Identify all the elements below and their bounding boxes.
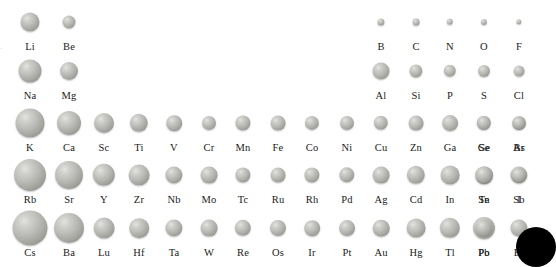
atom-sphere-zr <box>129 165 150 186</box>
element-symbol-fe: Fe <box>273 142 284 153</box>
element-symbol-ca: Ca <box>63 142 75 153</box>
atom-sphere-n <box>447 19 453 25</box>
element-symbol-au: Au <box>374 247 387 258</box>
element-symbol-se: Se <box>479 142 490 153</box>
atom-sphere-lu <box>94 218 115 239</box>
element-symbol-cs: Cs <box>24 247 36 258</box>
atom-sphere-al <box>373 63 390 80</box>
atom-sphere-rh <box>304 167 319 182</box>
atom-sphere-rb <box>14 159 46 191</box>
element-symbol-y: Y <box>100 194 108 205</box>
atom-sphere-cs <box>13 211 48 246</box>
element-symbol-pt: Pt <box>342 247 351 258</box>
element-symbol-cr: Cr <box>204 142 215 153</box>
atom-sphere-ba <box>54 213 84 243</box>
element-symbol-nb: Nb <box>167 194 180 205</box>
element-symbol-hf: Hf <box>133 247 144 258</box>
atom-sphere-cu <box>374 116 388 130</box>
element-symbol-po: Po <box>478 247 490 258</box>
atom-sphere-ga <box>442 115 458 131</box>
element-symbol-hg: Hg <box>409 247 422 258</box>
atom-sphere-b <box>377 18 384 25</box>
element-symbol-os: Os <box>272 247 284 258</box>
element-symbol-si: Si <box>411 90 420 101</box>
element-symbol-cd: Cd <box>410 194 423 205</box>
atom-sphere-li <box>21 13 40 32</box>
element-symbol-mg: Mg <box>62 90 77 101</box>
atom-sphere-tc <box>235 167 250 182</box>
atom-sphere-os <box>270 220 286 236</box>
atom-sphere-cl <box>514 66 525 77</box>
atom-sphere-tl <box>440 218 460 238</box>
atom-sphere-sc <box>94 113 114 133</box>
element-symbol-k: K <box>26 142 34 153</box>
element-symbol-b: B <box>377 41 384 52</box>
element-symbol-rh: Rh <box>306 194 319 205</box>
element-symbol-ni: Ni <box>342 142 353 153</box>
element-symbol-f: F <box>516 41 522 52</box>
element-symbol-c: C <box>412 41 419 52</box>
atom-sphere-ag <box>373 167 390 184</box>
element-symbol-al: Al <box>376 90 387 101</box>
element-symbol-sc: Sc <box>99 142 110 153</box>
atom-sphere-ta <box>165 219 182 236</box>
atom-sphere-si <box>409 64 422 77</box>
element-symbol-ti: Ti <box>134 142 143 153</box>
atom-sphere-be <box>63 16 76 29</box>
atom-sphere-f <box>516 19 521 24</box>
atom-sphere-na <box>19 60 42 83</box>
element-symbol-re: Re <box>237 247 249 258</box>
atom-sphere-re <box>235 220 251 236</box>
element-symbol-i: I <box>517 194 521 205</box>
atom-sphere-s <box>478 65 490 77</box>
element-symbol-mn: Mn <box>236 142 251 153</box>
atom-sphere-fe <box>271 116 286 131</box>
element-symbol-tl: Tl <box>445 247 455 258</box>
element-symbol-zr: Zr <box>134 194 144 205</box>
atom-sphere-ti <box>130 114 148 132</box>
element-symbol-be: Be <box>63 41 75 52</box>
atom-sphere-mg <box>60 62 78 80</box>
atom-sphere-c <box>413 19 420 26</box>
atom-sphere-hg <box>407 219 426 238</box>
element-symbol-rb: Rb <box>24 194 37 205</box>
edge-clipped-glyph: . <box>0 42 2 51</box>
element-symbol-tc: Tc <box>238 194 249 205</box>
element-symbol-v: V <box>170 142 178 153</box>
atom-sphere-pd <box>339 167 354 182</box>
element-symbol-sr: Sr <box>64 194 74 205</box>
element-symbol-zn: Zn <box>410 142 422 153</box>
element-symbol-ir: Ir <box>308 247 315 258</box>
atom-sphere-zn <box>409 116 424 131</box>
element-symbol-br: Br <box>514 142 525 153</box>
atom-sphere-ca <box>57 111 81 135</box>
element-symbol-cl: Cl <box>514 90 524 101</box>
element-symbol-o: O <box>480 41 488 52</box>
atom-sphere-v <box>166 115 182 131</box>
element-symbol-s: S <box>481 90 487 101</box>
atom-sphere-p <box>444 65 456 77</box>
atom-sphere-ir <box>304 220 320 236</box>
atom-sphere-ru <box>271 168 286 183</box>
element-symbol-te: Te <box>479 194 490 205</box>
element-symbol-pd: Pd <box>341 194 353 205</box>
element-symbol-in: In <box>445 194 454 205</box>
element-symbol-co: Co <box>306 142 319 153</box>
atom-sphere-in <box>441 166 460 185</box>
corner-marker-circle <box>516 227 556 267</box>
atom-sphere-cr <box>202 116 216 130</box>
element-symbol-cu: Cu <box>375 142 388 153</box>
element-symbol-na: Na <box>24 90 37 101</box>
atom-sphere-nb <box>165 166 182 183</box>
element-symbol-ba: Ba <box>63 247 75 258</box>
element-symbol-ag: Ag <box>374 194 387 205</box>
atom-sphere-k <box>16 109 45 138</box>
atom-sphere-mo <box>201 167 218 184</box>
atom-sphere-cd <box>407 166 425 184</box>
atom-sphere-mn <box>235 115 250 130</box>
atom-sphere-w <box>201 220 218 237</box>
atom-sphere-au <box>373 220 390 237</box>
element-symbol-lu: Lu <box>98 247 110 258</box>
element-symbol-w: W <box>204 247 214 258</box>
